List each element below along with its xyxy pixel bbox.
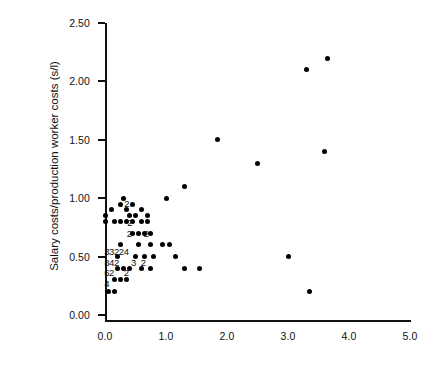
y-tick-label: 2.50 — [52, 18, 90, 28]
overplot-count-label: 2 — [114, 257, 119, 266]
data-point — [322, 149, 327, 154]
data-point — [124, 277, 129, 282]
overplot-count-label: 3 — [131, 257, 136, 266]
scatter-plot-figure: Salary costs/production worker costs (s/… — [0, 0, 427, 370]
data-point — [307, 289, 312, 294]
data-point — [130, 202, 135, 207]
overplot-count-label: 2 — [144, 229, 149, 238]
x-tick-label: 1.0 — [146, 331, 186, 341]
y-tick-mark — [98, 314, 105, 316]
data-point — [145, 219, 150, 224]
data-point — [145, 213, 150, 218]
overplot-count-label: 2 — [141, 257, 146, 266]
y-tick-label: 0.50 — [52, 252, 90, 262]
data-point — [255, 161, 260, 166]
overplot-count-label: 2 — [124, 199, 129, 208]
y-tick-mark — [98, 22, 105, 24]
y-tick-label: 2.00 — [52, 76, 90, 86]
overplot-count-label: 2 — [127, 217, 132, 226]
data-point — [164, 196, 169, 201]
data-point — [118, 277, 123, 282]
data-point — [160, 242, 165, 247]
data-point — [118, 219, 123, 224]
data-point — [151, 254, 156, 259]
data-point — [148, 242, 153, 247]
overplot-count-label: 2 — [124, 268, 129, 277]
data-point — [118, 202, 123, 207]
y-axis-title: Salary costs/production worker costs (s/… — [48, 16, 60, 316]
x-tick-label: 0.0 — [85, 331, 125, 341]
data-point — [106, 289, 111, 294]
data-point — [325, 56, 330, 61]
x-tick-label: 3.0 — [268, 331, 308, 341]
data-point — [286, 254, 291, 259]
data-point — [197, 266, 202, 271]
x-tick-label: 5.0 — [390, 331, 427, 341]
data-point — [304, 67, 309, 72]
y-tick-label: 0.00 — [52, 310, 90, 320]
data-point — [109, 207, 114, 212]
data-point — [182, 184, 187, 189]
overplot-count-label: 4 — [124, 247, 129, 256]
data-point — [148, 266, 153, 271]
overplot-count-label: 4 — [104, 278, 109, 287]
data-point — [215, 137, 220, 142]
data-point — [103, 219, 108, 224]
x-tick-label: 2.0 — [207, 331, 247, 341]
overplot-count-label: 2 — [127, 229, 132, 238]
data-point — [182, 266, 187, 271]
x-tick-label: 4.0 — [329, 331, 369, 341]
data-point — [136, 242, 141, 247]
y-tick-mark — [98, 139, 105, 141]
data-point — [112, 289, 117, 294]
overplot-count-label: 2 — [109, 268, 114, 277]
y-tick-mark — [98, 80, 105, 82]
data-point — [133, 213, 138, 218]
y-tick-label: 1.00 — [52, 193, 90, 203]
data-point — [167, 242, 172, 247]
y-tick-mark — [98, 197, 105, 199]
data-point — [136, 231, 141, 236]
data-point — [103, 213, 108, 218]
data-point — [139, 207, 144, 212]
y-tick-label: 1.50 — [52, 135, 90, 145]
data-point — [173, 254, 178, 259]
data-point — [139, 219, 144, 224]
plot-area: 222233224842326224 — [105, 23, 411, 322]
data-point — [112, 219, 117, 224]
data-point — [112, 277, 117, 282]
